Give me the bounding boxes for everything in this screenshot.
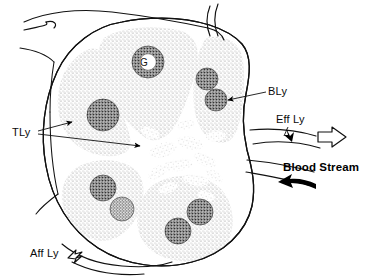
cortical-lobule-bottom-right <box>137 176 233 262</box>
blood-stream-label: Blood Stream <box>283 161 359 173</box>
follicle-bottom-right-a <box>187 199 213 225</box>
follicle-bottom-right-b <box>165 218 191 244</box>
t-lymphocyte-follicle <box>87 99 119 131</box>
b-lymphocyte-follicle-upper <box>196 68 218 90</box>
lymph-node-body <box>43 18 253 266</box>
follicle-left-lower-b <box>110 197 134 221</box>
follicle-left-lower-a <box>90 175 116 201</box>
tly-label: TLy <box>12 126 31 138</box>
hilum-vessels <box>246 129 320 186</box>
aff-ly-label: Aff Ly <box>30 247 59 259</box>
aff-ly-hollow-arrow-icon <box>68 250 82 263</box>
eff-ly-label: Eff Ly <box>276 113 305 125</box>
bly-label: BLy <box>268 85 287 97</box>
efferent-lymphatic-duct <box>250 129 316 136</box>
blood-stream-arrow-icon <box>278 174 316 189</box>
figure-canvas: TLy BLy G Eff Ly Aff Ly Blood Stream <box>0 0 366 280</box>
germinal-center-label: G <box>140 57 148 68</box>
b-lymphocyte-follicle-lower <box>205 89 227 111</box>
efferent-flow-hollow-arrow-icon <box>318 127 346 147</box>
lymph-node-diagram: TLy BLy G Eff Ly Aff Ly Blood Stream <box>0 0 366 280</box>
